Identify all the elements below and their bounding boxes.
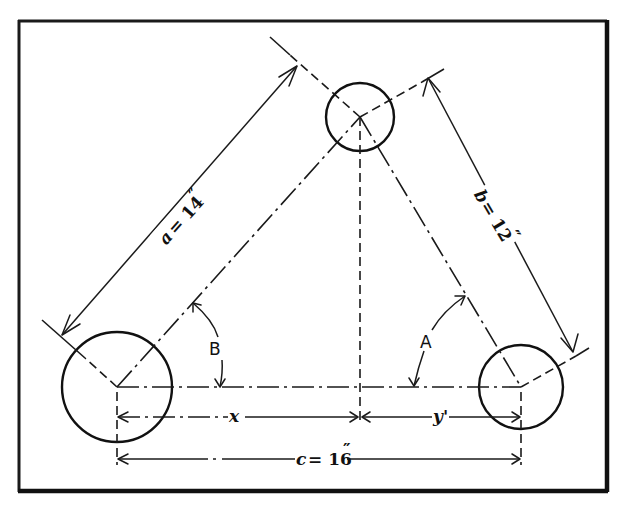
segment-y-label: y' [432,406,448,426]
dimension-c: c = 16 ″ [118,439,520,469]
angle-A-label: A [420,332,432,352]
figure-frame [18,20,608,492]
triangle-dimension-diagram: a = 14 ″ b = 12 ″ B A x [0,0,623,508]
dimension-c-var: c [296,449,307,469]
angle-B: B [193,303,225,387]
extension-lines [42,37,589,465]
side-b-centerline [360,117,521,387]
segment-x-label: x [228,406,240,426]
side-a-centerline [117,117,360,387]
dimension-c-inch: ″ [343,439,351,459]
dimension-x-y: x y' [118,406,520,426]
angle-A: A [409,296,465,386]
triangle-centerlines [117,117,521,422]
dimension-a: a = 14 ″ [62,66,297,335]
angle-B-label: B [209,339,221,359]
